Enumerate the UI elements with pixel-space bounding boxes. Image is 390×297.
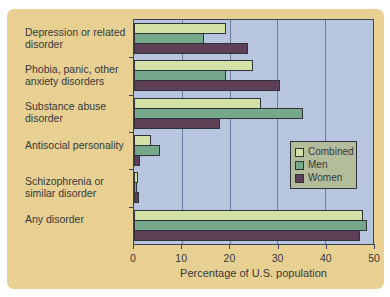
women-bar — [134, 118, 220, 129]
women-swatch-icon — [295, 174, 304, 183]
bar-group — [134, 20, 373, 57]
category-label: Antisocial personality — [25, 126, 129, 163]
category-label-line: Phobia, panic, other — [25, 63, 129, 75]
legend: Combined Men Women — [290, 141, 357, 189]
legend-item-men: Men — [295, 159, 352, 171]
category-label-line: Schizophrenia or — [25, 175, 129, 187]
x-axis-tick — [278, 244, 279, 249]
legend-item-combined: Combined — [295, 146, 352, 158]
bar-group — [134, 95, 373, 132]
women-bar — [134, 43, 248, 54]
category-labels: Depression or relateddisorderPhobia, pan… — [25, 19, 129, 243]
x-axis-tick-label: 0 — [130, 252, 136, 264]
x-axis-tick-label: 50 — [368, 252, 380, 264]
x-axis-tick — [326, 244, 327, 249]
y-axis-tick — [129, 169, 134, 170]
category-label-line: disorder — [25, 112, 129, 124]
x-axis-tick — [374, 244, 375, 249]
bar-group — [134, 57, 373, 94]
women-bar — [134, 80, 280, 91]
x-axis-tick-label: 10 — [175, 252, 187, 264]
plot-area: Combined Men Women — [133, 19, 374, 245]
legend-label: Combined — [308, 147, 354, 157]
x-axis-title: Percentage of U.S. population — [133, 267, 374, 279]
women-bar — [134, 230, 360, 241]
bar-group — [134, 207, 373, 244]
x-axis-tick-labels: 01020304050 — [133, 252, 374, 264]
y-axis-tick — [129, 207, 134, 208]
x-axis-tick — [181, 244, 182, 249]
legend-item-women: Women — [295, 172, 352, 184]
x-axis-tick — [229, 244, 230, 249]
combined-swatch-icon — [295, 148, 304, 157]
category-label-line: similar disorder — [25, 187, 129, 199]
category-label-line: Antisocial personality — [25, 139, 129, 151]
category-label-line: anxiety disorders — [25, 75, 129, 87]
plot-rows — [134, 20, 373, 244]
category-label-line: Any disorder — [25, 213, 129, 225]
women-bar — [134, 155, 140, 166]
category-label-line: disorder — [25, 38, 129, 50]
category-label: Phobia, panic, otheranxiety disorders — [25, 56, 129, 93]
chart-panel: Depression or relateddisorderPhobia, pan… — [7, 9, 384, 289]
legend-label: Men — [308, 160, 327, 170]
x-axis-tick-label: 20 — [224, 252, 236, 264]
y-axis-tick — [129, 132, 134, 133]
x-axis-tick-label: 30 — [272, 252, 284, 264]
men-swatch-icon — [295, 161, 304, 170]
x-axis-tick-label: 40 — [320, 252, 332, 264]
y-axis-tick — [129, 95, 134, 96]
legend-label: Women — [308, 173, 342, 183]
y-axis-tick — [129, 57, 134, 58]
category-label: Any disorder — [25, 201, 129, 238]
women-bar — [134, 192, 139, 203]
x-axis-tick — [133, 244, 134, 249]
category-label: Depression or relateddisorder — [25, 19, 129, 56]
category-label-line: Substance abuse — [25, 100, 129, 112]
category-label-line: Depression or related — [25, 26, 129, 38]
